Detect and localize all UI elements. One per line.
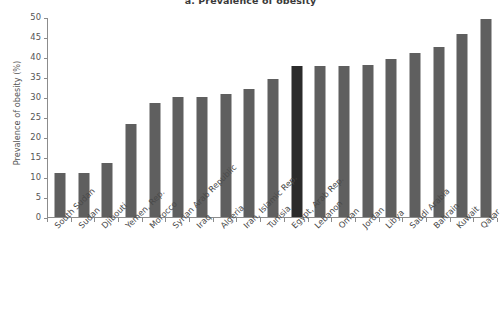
y-tick-label: 5	[36, 192, 41, 202]
plot-area: 05101520253035404550	[47, 18, 497, 218]
x-tick-mark	[260, 218, 261, 222]
bar-slot	[356, 18, 380, 217]
bar	[102, 163, 113, 217]
x-tick-mark	[473, 218, 474, 222]
bar-slot	[403, 18, 427, 217]
y-tick-label: 40	[30, 52, 41, 62]
bar	[362, 65, 373, 217]
y-tick-label: 45	[30, 32, 41, 42]
bar	[291, 66, 302, 217]
bar-slot	[451, 18, 475, 217]
bar	[220, 94, 231, 217]
bar	[457, 34, 468, 217]
bar	[386, 59, 397, 217]
y-tick-label: 20	[30, 132, 41, 142]
bar	[173, 97, 184, 217]
y-tick-label: 35	[30, 72, 41, 82]
x-tick-mark	[118, 218, 119, 222]
x-tick-mark	[189, 218, 190, 222]
x-tick-mark	[497, 218, 498, 222]
y-tick-label: 30	[30, 92, 41, 102]
y-axis-title: Prevalence of obesity (%)	[12, 38, 22, 188]
bar	[481, 19, 492, 217]
bar	[410, 53, 421, 217]
bar	[339, 66, 350, 217]
x-tick-mark	[331, 218, 332, 222]
x-tick-mark	[402, 218, 403, 222]
bar-series	[48, 18, 497, 217]
chart-figure: a. Prevalence of obesity Prevalence of o…	[0, 0, 501, 311]
bar-slot	[166, 18, 190, 217]
bar-slot	[427, 18, 451, 217]
bar-slot	[143, 18, 167, 217]
y-tick-label: 15	[30, 152, 41, 162]
y-tick-label: 25	[30, 112, 41, 122]
bar-slot	[95, 18, 119, 217]
bar-slot	[474, 18, 498, 217]
bar-slot	[380, 18, 404, 217]
x-axis-labels: South SudanSudanDjiboutiYemen, Rep.Moroc…	[47, 224, 501, 311]
y-tick-label: 0	[36, 212, 41, 222]
bar-slot	[119, 18, 143, 217]
y-tick-label: 10	[30, 172, 41, 182]
bar	[244, 89, 255, 217]
bar	[125, 124, 136, 217]
bar-slot	[237, 18, 261, 217]
chart-title: a. Prevalence of obesity	[0, 0, 501, 6]
bar-slot	[48, 18, 72, 217]
y-tick-label: 50	[30, 12, 41, 22]
x-tick-mark	[47, 218, 48, 222]
